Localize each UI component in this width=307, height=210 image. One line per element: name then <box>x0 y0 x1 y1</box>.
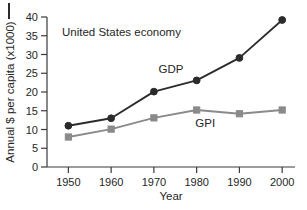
data-point-gdp <box>150 88 157 95</box>
y-tick-label: 25 <box>26 67 38 79</box>
line-chart: 0510152025303540 19501960197019801990200… <box>0 0 307 210</box>
data-point-gpi <box>65 134 71 140</box>
y-tick-label: 10 <box>26 124 38 136</box>
x-axis-ticks: 195019601970198019902000 <box>56 167 294 188</box>
y-tick-label: 5 <box>32 142 38 154</box>
y-tick-label: 20 <box>26 86 38 98</box>
series-gpi <box>65 107 285 140</box>
y-tick-label: 40 <box>26 11 38 23</box>
series-inline-labels: GDPGPI <box>159 63 216 129</box>
y-tick-label: 0 <box>32 161 38 173</box>
series-line-gpi <box>68 110 282 137</box>
data-point-gdp <box>236 54 243 61</box>
y-tick-label: 30 <box>26 49 38 61</box>
x-tick-label: 2000 <box>270 176 294 188</box>
data-point-gpi <box>236 111 242 117</box>
y-axis-title: Annual $ per capita (x1000) <box>4 21 16 162</box>
plot-axes <box>47 17 295 167</box>
x-tick-label: 1970 <box>142 176 166 188</box>
data-point-gpi <box>151 115 157 121</box>
x-tick-label: 1960 <box>99 176 123 188</box>
series-label-gdp: GDP <box>159 63 184 75</box>
data-point-gpi <box>279 107 285 113</box>
x-tick-label: 1950 <box>56 176 80 188</box>
series-label-gpi: GPI <box>195 117 215 129</box>
y-tick-label: 15 <box>26 105 38 117</box>
data-point-gpi <box>194 107 200 113</box>
data-point-gdp <box>279 17 286 24</box>
data-point-gdp <box>193 77 200 84</box>
data-point-gdp <box>65 122 72 129</box>
x-axis-title: Year <box>159 190 182 202</box>
x-tick-label: 1990 <box>227 176 251 188</box>
chart-annotation: United States economy <box>62 26 181 38</box>
y-axis-ticks: 0510152025303540 <box>26 11 47 173</box>
chart-figure: 0510152025303540 19501960197019801990200… <box>0 0 307 210</box>
data-point-gdp <box>108 115 115 122</box>
x-tick-label: 1980 <box>184 176 208 188</box>
y-tick-label: 35 <box>26 30 38 42</box>
data-point-gpi <box>108 126 114 132</box>
